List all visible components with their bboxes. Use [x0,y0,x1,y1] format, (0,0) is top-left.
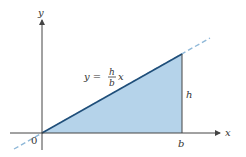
diagram-canvas: y x 0 b h y = h b x [0,0,246,157]
origin-label: 0 [31,135,37,146]
b-label: b [178,138,184,149]
equation-variable: x [118,71,124,82]
h-label: h [186,89,192,100]
fraction-numerator: h [109,67,115,77]
y-axis-label: y [37,7,44,18]
equation-lhs: y = [83,71,101,82]
line-equation: y = h b x [83,67,124,88]
fraction-denominator: b [109,78,115,88]
x-axis-label: x [225,127,231,138]
